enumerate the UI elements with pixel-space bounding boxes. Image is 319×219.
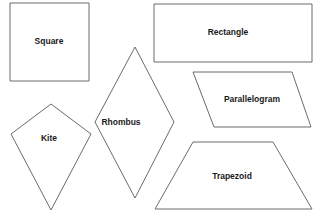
kite-shape: Kite (11, 104, 91, 210)
quadrilaterals-diagram: Square Rectangle Rhombus Parallelogram K… (0, 0, 319, 219)
trapezoid-shape: Trapezoid (155, 142, 312, 209)
kite-outline (11, 104, 91, 210)
kite-label: Kite (41, 133, 57, 143)
parallelogram-shape: Parallelogram (193, 72, 311, 127)
rhombus-label: Rhombus (101, 117, 140, 127)
square-shape: Square (10, 3, 89, 81)
rectangle-label: Rectangle (208, 27, 249, 37)
square-label: Square (35, 36, 64, 46)
parallelogram-label: Parallelogram (224, 94, 281, 104)
trapezoid-label: Trapezoid (212, 171, 252, 181)
rhombus-shape: Rhombus (95, 47, 174, 198)
rectangle-shape: Rectangle (154, 4, 312, 62)
